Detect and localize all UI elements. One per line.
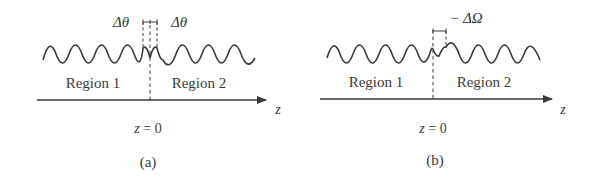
region-2-label: Region 2 [172, 75, 227, 91]
panel-b: − ΔΩ Region 1 Region 2 z z = 0 (b) [320, 10, 566, 169]
delta-theta-left-label: Δθ [112, 14, 130, 30]
panel-b-caption: (b) [426, 152, 444, 169]
z-axis-label: z [274, 102, 281, 117]
wave-region-2 [433, 43, 540, 63]
figure-canvas: Δθ Δθ Region 1 Region 2 z z = 0 (a) − ΔΩ… [0, 0, 593, 184]
region-2-label: Region 2 [457, 74, 512, 90]
origin-label: z = 0 [133, 121, 161, 136]
wave-region-1 [327, 45, 433, 63]
region-1-label: Region 1 [66, 75, 121, 91]
delta-omega-label: − ΔΩ [449, 10, 482, 26]
panel-a: Δθ Δθ Region 1 Region 2 z z = 0 (a) [37, 14, 281, 171]
panel-a-caption: (a) [140, 154, 157, 171]
z-axis-label: z [559, 102, 566, 117]
wave-region-1 [43, 45, 150, 63]
wave-region-2 [150, 45, 255, 65]
delta-theta-right-label: Δθ [170, 14, 188, 30]
region-1-label: Region 1 [349, 74, 404, 90]
origin-label: z = 0 [418, 121, 446, 136]
